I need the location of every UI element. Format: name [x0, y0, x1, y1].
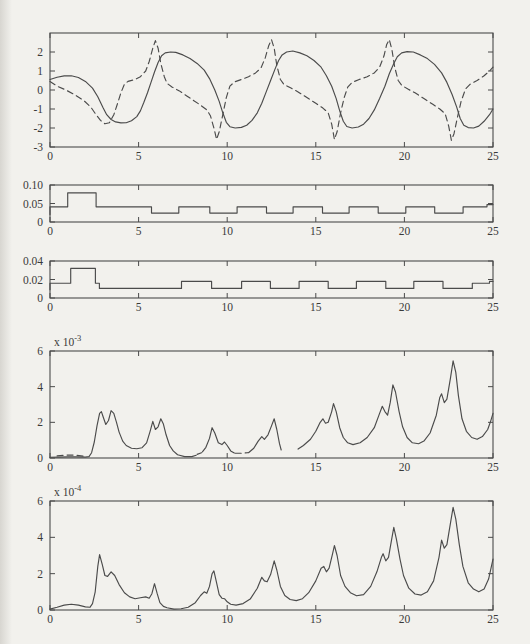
chart-oscillation-traces: 0510152025-3-2-1012: [0, 0, 530, 170]
x-tick-label: 15: [310, 461, 322, 473]
y-tick-label: 0: [37, 216, 43, 228]
series-peaks-e3: [249, 419, 282, 453]
step-trace-b-svg: 051015202500.020.04: [0, 248, 530, 330]
plot-box: [50, 351, 493, 458]
y-tick-label: 0.05: [23, 198, 43, 210]
y-tick-label: 0.04: [23, 255, 43, 267]
x-tick-label: 20: [399, 301, 411, 313]
x-tick-label: 15: [310, 225, 322, 237]
y-tick-label: 4: [37, 531, 43, 543]
y-tick-label: 2: [37, 568, 43, 580]
plot-box: [50, 501, 493, 610]
x-tick-label: 5: [136, 301, 142, 313]
y-tick-label: 6: [37, 495, 43, 507]
y-tick-label: 6: [37, 345, 43, 357]
series-solid-trace: [50, 51, 493, 128]
x-tick-label: 20: [399, 225, 411, 237]
x-tick-label: 0: [47, 613, 53, 625]
x-tick-label: 0: [47, 225, 53, 237]
y-tick-label: 0: [37, 604, 43, 616]
x-tick-label: 5: [136, 461, 142, 473]
x-tick-label: 20: [399, 461, 411, 473]
y-tick-label: 4: [37, 381, 43, 393]
x-tick-label: 10: [221, 225, 233, 237]
series-peaks-e3: [50, 411, 196, 458]
x-tick-label: 10: [221, 301, 233, 313]
x-tick-label: 15: [310, 150, 322, 162]
chart-peaks-trace-e3: 05101520250246x 10-3: [0, 330, 530, 480]
plot-box: [50, 185, 493, 222]
x-tick-label: 25: [487, 150, 499, 162]
series-peaks-e3: [298, 361, 493, 449]
x-tick-label: 10: [221, 150, 233, 162]
y-tick-label: 0.02: [23, 274, 43, 286]
series-peaks-e3-dashed-bits: [57, 455, 84, 456]
x-tick-label: 15: [310, 301, 322, 313]
x-tick-label: 20: [399, 150, 411, 162]
y-axis-multiplier: x 10-4: [54, 483, 82, 498]
peaks-trace-e3-svg: 05101520250246x 10-3: [0, 330, 530, 480]
y-tick-label: 2: [37, 416, 43, 428]
chart-step-trace-a: 051015202500.050.10: [0, 170, 530, 248]
x-tick-label: 5: [136, 613, 142, 625]
y-tick-label: 0: [37, 452, 43, 464]
series-peaks-e4: [50, 507, 493, 609]
x-tick-label: 25: [487, 225, 499, 237]
x-tick-label: 15: [310, 613, 322, 625]
x-tick-label: 5: [136, 150, 142, 162]
x-tick-label: 10: [221, 461, 233, 473]
y-tick-label: 1: [37, 65, 43, 77]
y-tick-label: 0.10: [23, 179, 43, 191]
y-tick-label: -2: [33, 122, 43, 134]
y-axis-multiplier: x 10-3: [54, 333, 81, 348]
x-tick-label: 25: [487, 301, 499, 313]
x-tick-label: 5: [136, 225, 142, 237]
series-step-a: [50, 193, 493, 215]
x-tick-label: 10: [221, 613, 233, 625]
peaks-trace-e4-svg: 05101520250246x 10-4: [0, 480, 530, 644]
x-tick-label: 25: [487, 461, 499, 473]
series-peaks-e3-dashed-bits: [197, 453, 201, 455]
chart-peaks-trace-e4: 05101520250246x 10-4: [0, 480, 530, 644]
y-tick-label: 0: [37, 292, 43, 304]
x-tick-label: 25: [487, 613, 499, 625]
y-tick-label: 2: [37, 46, 43, 58]
chart-step-trace-b: 051015202500.020.04: [0, 248, 530, 330]
series-step-b: [50, 268, 493, 289]
x-tick-label: 0: [47, 150, 53, 162]
plot-box: [50, 261, 493, 298]
oscillation-traces-svg: 0510152025-3-2-1012: [0, 0, 530, 170]
plot-box: [50, 33, 493, 147]
y-tick-label: -1: [33, 103, 43, 115]
y-tick-label: -3: [33, 141, 43, 153]
series-dashed-trace: [50, 40, 493, 141]
x-tick-label: 0: [47, 461, 53, 473]
x-tick-label: 0: [47, 301, 53, 313]
y-tick-label: 0: [37, 84, 43, 96]
series-peaks-e3-dashed-bits: [235, 453, 247, 454]
scanned-figure-page: 0510152025-3-2-1012 051015202500.050.10 …: [0, 0, 530, 644]
step-trace-a-svg: 051015202500.050.10: [0, 170, 530, 248]
x-tick-label: 20: [399, 613, 411, 625]
series-peaks-e3: [202, 428, 234, 453]
